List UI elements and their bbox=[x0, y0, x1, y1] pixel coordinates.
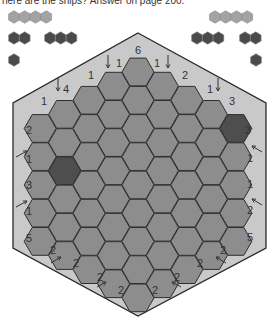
clue-bottom: 2 bbox=[174, 271, 180, 283]
legend-left-ship-1-hex bbox=[9, 54, 20, 66]
legend-left-ship-4-hex bbox=[19, 11, 30, 23]
clue-bottom: 2 bbox=[50, 244, 56, 256]
clue-right: 2 bbox=[247, 204, 253, 216]
legend-right-ship-3-hex bbox=[192, 32, 203, 44]
legend-left-ship-2-hex bbox=[19, 32, 30, 44]
clue-left: 1 bbox=[26, 205, 32, 217]
clue-left: 2 bbox=[26, 124, 32, 136]
clue-bottom: 2 bbox=[152, 284, 158, 296]
legend-right-ship-2-hex bbox=[250, 32, 261, 44]
legend-left-ship-3-hex bbox=[66, 32, 77, 44]
clue-top: 3 bbox=[229, 95, 235, 107]
clue-top: 1 bbox=[154, 57, 160, 69]
legend-left-ship-4-hex bbox=[30, 11, 41, 23]
legend-right-ship-1-hex bbox=[251, 54, 262, 66]
legend-right-ship-4-hex bbox=[220, 11, 231, 23]
clue-top: 1 bbox=[116, 57, 122, 69]
legend-left-ship-4-hex bbox=[9, 11, 20, 23]
clue-bottom: 2 bbox=[97, 271, 103, 283]
legend-right-ship-4-hex bbox=[210, 11, 221, 23]
clue-bottom: 2 bbox=[197, 257, 203, 269]
clue-right: 3 bbox=[245, 124, 251, 136]
legend-right-ship-2-hex bbox=[240, 32, 251, 44]
clue-left: 3 bbox=[26, 179, 32, 191]
clue-left: 5 bbox=[26, 232, 32, 244]
clue-right: 1 bbox=[247, 178, 253, 190]
clue-bottom: 2 bbox=[73, 257, 79, 269]
legend-left-ship-3-hex bbox=[45, 32, 56, 44]
clue-top: 1 bbox=[207, 83, 213, 95]
clue-top: 2 bbox=[182, 69, 188, 81]
clue-top: 1 bbox=[88, 69, 94, 81]
legend-left-ship-2-hex bbox=[9, 32, 20, 44]
clue-top: 1 bbox=[41, 95, 47, 107]
legend-right-ship-3-hex bbox=[213, 32, 224, 44]
legend-right-ship-4-hex bbox=[242, 11, 253, 23]
legend-left-ship-4-hex bbox=[41, 11, 52, 23]
puzzle-board: 611124113213153112522222222 bbox=[0, 0, 271, 317]
legend-right-ship-3-hex bbox=[202, 32, 213, 44]
clue-left: 1 bbox=[26, 153, 32, 165]
clue-top: 4 bbox=[63, 83, 69, 95]
clue-right: 5 bbox=[247, 231, 253, 243]
legend-right-ship-4-hex bbox=[231, 11, 242, 23]
legend-left-ship-3-hex bbox=[55, 32, 66, 44]
clue-bottom: 2 bbox=[220, 244, 226, 256]
clue-right: 1 bbox=[247, 152, 253, 164]
clue-bottom: 2 bbox=[118, 284, 124, 296]
clue-top-center: 6 bbox=[135, 44, 141, 56]
